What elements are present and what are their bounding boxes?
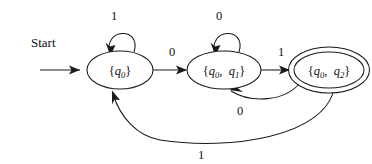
transition-label-s1-self: 0	[216, 9, 222, 23]
transition-label-s2-to-s0: 1	[198, 148, 204, 162]
automaton-state-diagram: {q0} {q0, q1} {q0, q2} Start 1 0 0 1 0 1	[0, 0, 372, 164]
state-node-s0[interactable]: {q0}	[87, 51, 153, 89]
transition-s2-to-s0	[112, 89, 334, 143]
start-label: Start	[31, 35, 56, 50]
transition-label-s0-self: 1	[111, 9, 117, 23]
state-label-s2: {q0, q2}	[308, 64, 350, 80]
state-label-s1: {q0, q1}	[203, 64, 245, 80]
transition-s1-to-s2	[261, 66, 290, 75]
transition-label-s2-to-s1: 0	[237, 104, 243, 118]
transition-label-s1-to-s2: 1	[278, 45, 284, 59]
state-node-s1[interactable]: {q0, q1}	[187, 51, 261, 89]
transition-edge-path	[113, 89, 334, 143]
start-arrow-group	[40, 66, 80, 75]
transition-label-s0-to-s1: 0	[169, 45, 175, 59]
state-label-s0: {q0}	[109, 64, 132, 80]
state-node-s2[interactable]: {q0, q2}	[289, 47, 370, 93]
transition-s0-to-s1	[153, 66, 187, 75]
